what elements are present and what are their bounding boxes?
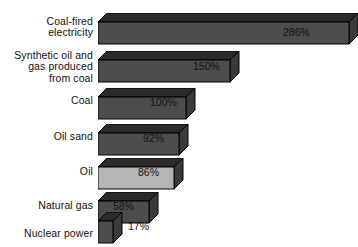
category-label: Oil sand xyxy=(54,131,93,143)
bar-top-face xyxy=(98,88,195,97)
category-label: Coal xyxy=(71,95,93,107)
value-label: 286% xyxy=(283,26,310,38)
bar-top-face xyxy=(98,13,358,22)
value-label: 150% xyxy=(193,60,220,72)
category-label-wrap: Oil xyxy=(0,159,93,185)
category-label-wrap: Coal xyxy=(0,88,93,114)
category-label: Nuclear power xyxy=(24,228,93,240)
category-label: Natural gas xyxy=(38,200,93,212)
category-label-wrap: Natural gas xyxy=(0,193,93,219)
category-label-wrap: Nuclear power xyxy=(0,221,93,247)
value-label: 86% xyxy=(138,166,159,178)
bar-front-face xyxy=(98,22,349,44)
bar-shape xyxy=(98,51,248,85)
bar-shape xyxy=(98,13,358,47)
category-label-wrap: Coal-fired electricity xyxy=(0,14,93,40)
bar-top-face xyxy=(98,51,239,60)
bar-front-face xyxy=(98,167,174,189)
value-label: 92% xyxy=(143,132,164,144)
category-label: Synthetic oil and gas produced from coal xyxy=(14,50,93,85)
category-label-wrap: Synthetic oil and gas produced from coal xyxy=(0,48,93,86)
value-label: 17% xyxy=(128,220,149,232)
category-label: Coal-fired electricity xyxy=(46,16,93,39)
value-label: 58% xyxy=(113,200,134,212)
value-label: 100% xyxy=(150,96,177,108)
bar-front-face xyxy=(98,133,179,155)
bar-front-face xyxy=(98,221,113,243)
category-label-wrap: Oil sand xyxy=(0,124,93,150)
category-label: Oil xyxy=(80,166,93,178)
